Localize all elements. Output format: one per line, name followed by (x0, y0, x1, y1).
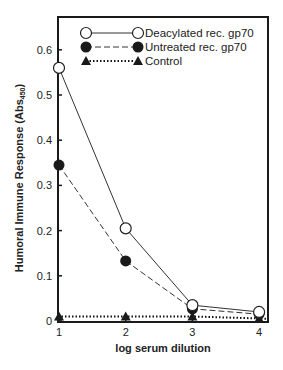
open-circle-marker (54, 62, 65, 73)
legend-item: Untreated rec. gp70 (81, 41, 247, 53)
x-tick-label: 3 (189, 326, 195, 338)
open-circle-marker (254, 306, 265, 317)
series-line (58, 316, 268, 318)
open-circle-marker (120, 223, 131, 234)
y-tick-label: 0 (46, 315, 52, 327)
open-circle-marker (133, 28, 144, 39)
y-tick-label: 0.3 (37, 179, 52, 191)
x-axis-label: log serum dilution (115, 342, 211, 354)
series-line (59, 68, 259, 312)
series-line (59, 165, 259, 314)
chart: 00.10.20.30.40.50.61234 Deacylated rec. … (0, 0, 283, 370)
legend-item: Deacylated rec. gp70 (81, 27, 254, 39)
filled-circle-marker (54, 160, 65, 171)
legend-item: Control (81, 55, 182, 67)
y-tick-label: 0.1 (37, 270, 52, 282)
series-0 (54, 62, 265, 317)
y-axis-label: Humoral Immune Response (Abs450) (13, 84, 26, 273)
series-1 (54, 160, 265, 320)
y-tick-label: 0.4 (37, 134, 52, 146)
open-circle-marker (187, 300, 198, 311)
legend-label: Control (145, 55, 182, 67)
x-tick-label: 4 (256, 326, 262, 338)
y-tick-label: 0.5 (37, 89, 52, 101)
filled-circle-marker (133, 42, 144, 53)
legend-label: Untreated rec. gp70 (145, 41, 247, 53)
y-tick-label: 0.2 (37, 225, 52, 237)
x-tick-label: 1 (56, 326, 62, 338)
triangle-marker (133, 56, 143, 65)
open-circle-marker (81, 28, 92, 39)
legend-label: Deacylated rec. gp70 (145, 27, 254, 39)
x-tick-label: 2 (123, 326, 129, 338)
y-tick-label: 0.6 (37, 44, 52, 56)
filled-circle-marker (120, 255, 131, 266)
filled-circle-marker (81, 42, 92, 53)
